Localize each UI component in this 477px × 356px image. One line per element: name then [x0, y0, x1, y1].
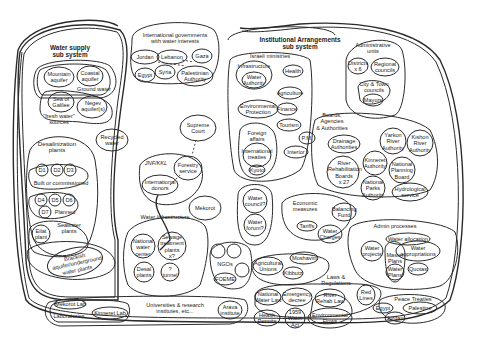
international-treaties: Internationaltreaties: [241, 148, 273, 161]
hydrological-service: Hydrologicalservice: [393, 186, 427, 199]
master-plans: MasterPlans: [385, 252, 405, 265]
tunnel: ?tunnel: [160, 266, 180, 279]
kinneret-lab: Kinneret Lab: [94, 310, 126, 316]
ministry-infrastructure: Infrastructure: [235, 63, 273, 69]
economic-measures-title: Economicmeasures: [290, 200, 320, 213]
boards-agencies-title: Boards,Agencies& Authorities: [316, 112, 348, 131]
yarkon-river-authority: YarkonRiverAuthority: [381, 132, 405, 151]
water-forum: Waterforum?: [243, 219, 267, 232]
national-water-law: NationalWater Law: [255, 291, 281, 304]
foeme: FOEME: [214, 276, 236, 282]
eilat-plant: Eilatplant: [32, 228, 50, 241]
mayors: Mayors: [363, 97, 383, 103]
water-charges: WaterCharges: [318, 228, 342, 241]
peace-egypt: Egypt: [374, 305, 392, 311]
river-rehabilitation-boards: RiverRehabilitationBoardsx 27: [328, 160, 360, 186]
city-town-councils: City & Towncouncils: [358, 81, 390, 94]
water-plans: WaterPlans: [385, 266, 405, 279]
desal-plants: Desalplants: [134, 266, 154, 279]
ministry-tourism: Tourism: [277, 122, 301, 128]
health-permits: HealthPermits: [255, 312, 279, 325]
country-lebanon: Lebanon: [158, 54, 186, 60]
national-parks-authority: NationalParksAuthority: [361, 179, 385, 198]
institutional-title: Institutional Arrangementssub system: [255, 36, 345, 50]
peace-treaties-title: Peace Treaties: [390, 296, 436, 302]
emergency-decree: Emergencydecree: [283, 291, 311, 304]
moshavim: Moshavim: [292, 255, 316, 261]
israeli-ministries-title: Israeli ministries: [240, 53, 300, 59]
planned-label: Planned: [52, 209, 78, 215]
prime-minister: P.M.: [299, 135, 315, 141]
water-infrastructure-title: Water Infrastructure: [130, 214, 200, 220]
laws-regulations-title: Laws &Regulations: [320, 274, 352, 287]
kinneret-authority: KinneretAuthority: [363, 157, 387, 170]
drainage-authorities: DrainageAuthorities: [330, 138, 358, 151]
jnf-kkl: JNF/KKL: [142, 160, 170, 166]
territory-gaza: Gaza: [193, 53, 211, 59]
mountain-aquifer: Mountainaquifer: [45, 71, 73, 84]
tariffs: Tariffs: [297, 223, 317, 229]
kyoto: Kyoto: [249, 167, 265, 173]
seawater-plants: Seawaterplants: [55, 222, 83, 235]
recycled-water: Recycledwater: [98, 134, 126, 147]
plant-d5: D5: [50, 197, 60, 203]
international-governments-title: International governmentswith water inte…: [135, 32, 215, 45]
national-water-center: Nationalwatercenter: [131, 238, 155, 257]
sewage-treatment-plants: Sewagetreatmentplantsx?: [158, 234, 186, 260]
ministry-interior: Interior: [284, 149, 308, 155]
desalinization-plants-title: Desalinizationplants: [35, 141, 79, 154]
plant-d1: D1: [37, 167, 47, 173]
agricultural-unions: AgriculturalUnions: [253, 260, 283, 273]
water-allocation: Water allocation: [386, 236, 430, 242]
ground-water-label: Ground water: [74, 86, 114, 92]
river-rehab-law: RiverRehab Law: [316, 292, 344, 305]
water-act-1959: 1959WaterAct: [285, 309, 305, 328]
built-or-commissioned: Built or commissioned: [32, 180, 90, 186]
forestry-service: Forestryservice: [176, 162, 200, 175]
kishon-river-authority: KishonRiverAuthority: [408, 134, 432, 153]
arava-institute: Aravainstitute: [218, 304, 242, 317]
water-council: Watercouncil?: [243, 195, 267, 208]
plant-d6: D6: [64, 197, 74, 203]
ministry-agriculture: Agriculture: [276, 90, 304, 96]
peace-jordan: Jordan: [385, 315, 405, 321]
ministry-foreign-affairs: Foreignaffairs: [245, 130, 269, 143]
red-lines: RedLines: [358, 289, 374, 302]
water-authority: WaterAuthority: [242, 74, 266, 87]
negev-aquifer: Negevaquifer(s): [78, 100, 108, 113]
peace-palestine: Palestine: [405, 305, 435, 311]
kibbutz: Kibbutz: [283, 270, 303, 276]
country-syria: Syria: [155, 69, 175, 75]
regional-councils: Regionalcouncils: [372, 61, 398, 74]
water-projects: Waterprojects: [361, 245, 383, 258]
national-planning-board: NationalPlanningBoard: [390, 161, 414, 180]
fresh-water-sources: "fresh water"sources: [40, 113, 78, 126]
administrative-units-title: Administrativeunits: [350, 42, 396, 55]
sea-of-galilee: Sea ofGalilee: [50, 96, 72, 109]
country-egypt: Egypt: [135, 72, 155, 78]
admin-processes-title: Admin processes: [370, 223, 420, 229]
supreme-court: SupremeCourt: [184, 122, 212, 135]
country-jordan: Jordan: [133, 54, 157, 60]
plant-d4: D4: [36, 197, 46, 203]
environmental-flows: EnvironmentalFlows: [310, 312, 350, 325]
plant-d2: D2: [52, 167, 62, 173]
plant-d3: D3: [65, 167, 75, 173]
ngos-title: NGOs: [212, 261, 238, 267]
ministry-finance: Finance: [277, 106, 297, 112]
water-supply-title: Water supplysub system: [40, 44, 100, 58]
laboratories-title: Laboratories: [52, 313, 86, 319]
ministry-health: Health: [283, 68, 303, 74]
quotas: Quotas: [408, 266, 428, 272]
coastal-aquifer: Coastalaquifer: [78, 70, 102, 83]
districts: Districtsx 6: [348, 60, 368, 73]
mekorot-lab: Mekorot Lab: [55, 301, 85, 307]
ministry-environmental-protection: EnvironmentalProtection: [238, 103, 278, 116]
palestinian-authority: PalestinianAuthority: [178, 70, 212, 83]
plant-d7: D7: [40, 209, 50, 215]
international-donors: Internationaldonors: [143, 179, 177, 192]
universities-research: Universities & researchinstitutes, etc..…: [140, 302, 210, 315]
balancing-fund: BalancingFund: [332, 206, 356, 219]
mekorot: Mekorot: [192, 205, 218, 211]
